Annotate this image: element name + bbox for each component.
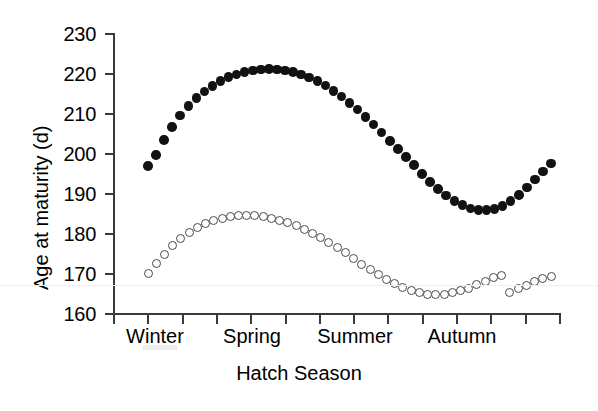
data-point-open-circles [185, 228, 194, 237]
data-point-filled-circles [546, 159, 556, 169]
data-point-open-circles [538, 274, 547, 283]
data-point-filled-circles [377, 128, 387, 138]
data-point-open-circles [209, 216, 218, 225]
season-label-summer: Summer [295, 325, 415, 347]
data-point-filled-circles [522, 183, 532, 193]
data-point-filled-circles [143, 161, 153, 171]
data-point-filled-circles [151, 150, 161, 160]
data-point-filled-circles [538, 167, 548, 177]
scan-artifact-mark [143, 345, 177, 350]
data-point-open-circles [168, 241, 177, 250]
data-point-open-circles [160, 250, 169, 259]
scan-artifact-line [0, 285, 598, 286]
data-point-filled-circles [409, 160, 419, 170]
season-label-autumn: Autumn [402, 325, 522, 347]
y-axis-title: Age at maturity (d) [30, 125, 52, 290]
data-point-filled-circles [514, 190, 524, 200]
data-point-filled-circles [175, 111, 185, 121]
data-point-open-circles [176, 234, 185, 243]
plot-area [0, 0, 598, 411]
data-point-open-circles [144, 269, 153, 278]
data-point-open-circles [431, 290, 440, 299]
chart-figure: 230220210200190180170160 WinterSpringSum… [0, 0, 598, 411]
data-point-filled-circles [184, 101, 194, 111]
data-point-filled-circles [401, 152, 411, 162]
data-point-open-circles [324, 238, 333, 247]
data-point-open-circles [547, 272, 556, 281]
data-point-filled-circles [385, 136, 395, 146]
data-point-filled-circles [369, 120, 379, 130]
data-point-filled-circles [192, 93, 202, 103]
data-point-filled-circles [159, 135, 169, 145]
x-axis-title: Hatch Season [0, 362, 598, 384]
data-point-filled-circles [361, 112, 371, 122]
data-point-open-circles [152, 259, 161, 268]
data-point-open-circles [497, 271, 506, 280]
season-label-spring: Spring [192, 325, 312, 347]
data-point-filled-circles [417, 169, 427, 179]
data-point-open-circles [283, 218, 292, 227]
data-point-filled-circles [167, 122, 177, 132]
data-point-filled-circles [393, 144, 403, 154]
data-point-filled-circles [530, 175, 540, 185]
data-point-open-circles [357, 260, 366, 269]
